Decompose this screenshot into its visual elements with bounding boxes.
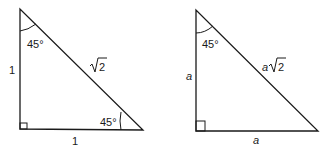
hypotenuse-radicand: 2 xyxy=(99,61,105,73)
angle-top-label: 45° xyxy=(27,38,44,50)
hypotenuse-radicand: 2 xyxy=(278,61,284,73)
angle-arc-top xyxy=(20,24,36,31)
triangle-unit: 45° 1 45° 1 2 xyxy=(9,9,143,147)
leg-horizontal-label: a xyxy=(253,134,259,146)
triangle-outline xyxy=(20,9,143,130)
angle-arc-right xyxy=(120,112,121,130)
hypotenuse-coefficient: a xyxy=(262,61,268,73)
leg-horizontal-label: 1 xyxy=(72,135,78,147)
right-angle-marker xyxy=(196,121,205,131)
hypotenuse-label: a 2 xyxy=(262,58,286,73)
leg-vertical-label: a xyxy=(186,70,192,82)
diagram-canvas: 45° 1 45° 1 2 45° a a a 2 xyxy=(0,0,330,155)
angle-top-label: 45° xyxy=(202,38,219,50)
angle-right-label: 45° xyxy=(100,116,117,128)
right-angle-marker xyxy=(20,123,27,129)
triangle-outline xyxy=(196,10,318,131)
leg-vertical-label: 1 xyxy=(9,64,15,76)
angle-arc-top xyxy=(196,26,213,33)
hypotenuse-label: 2 xyxy=(90,58,107,73)
triangle-general: 45° a a a 2 xyxy=(186,10,318,146)
